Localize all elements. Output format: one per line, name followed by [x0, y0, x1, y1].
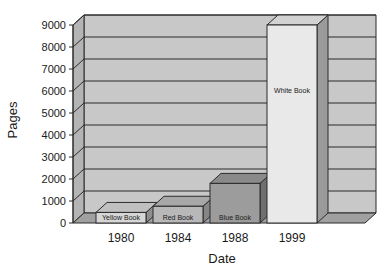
- bar-top-face: [210, 173, 271, 183]
- bar-3d[interactable]: Yellow Book: [96, 202, 157, 223]
- bar-value-label: White Book: [274, 87, 310, 94]
- x-tick-label: 1984: [165, 231, 192, 245]
- bar-3d[interactable]: White Book: [267, 15, 328, 223]
- x-tick-label: 1980: [108, 231, 135, 245]
- chart-container: 0100020003000400050006000700080009000 Ye…: [0, 0, 391, 272]
- bar-value-label: Red Book: [163, 214, 194, 221]
- bar-top-face: [153, 196, 214, 206]
- bar-value-label: Yellow Book: [102, 214, 140, 221]
- bar-top-face: [96, 202, 157, 212]
- x-tick-label: 1999: [279, 231, 306, 245]
- bar-side-face: [317, 15, 328, 223]
- y-tick-label: 6000: [42, 85, 66, 97]
- bar-top-face: [267, 15, 328, 25]
- x-axis-title: Date: [208, 251, 235, 266]
- bar-3d[interactable]: Blue Book: [210, 173, 271, 223]
- bar-front-face: [267, 25, 317, 223]
- y-axis-title: Pages: [5, 101, 20, 138]
- left-side-wall: [73, 15, 84, 223]
- bar-3d[interactable]: Red Book: [153, 196, 214, 223]
- y-tick-label: 0: [60, 217, 66, 229]
- bar-chart-3d: 0100020003000400050006000700080009000 Ye…: [0, 0, 391, 272]
- y-tick-label: 2000: [42, 173, 66, 185]
- y-tick-label: 9000: [42, 19, 66, 31]
- y-tick-label: 1000: [42, 195, 66, 207]
- y-tick-label: 7000: [42, 63, 66, 75]
- y-tick-label: 3000: [42, 151, 66, 163]
- x-tick-label: 1988: [222, 231, 249, 245]
- y-tick-label: 8000: [42, 41, 66, 53]
- bar-value-label: Blue Book: [219, 214, 251, 221]
- y-tick-label: 5000: [42, 107, 66, 119]
- y-tick-label: 4000: [42, 129, 66, 141]
